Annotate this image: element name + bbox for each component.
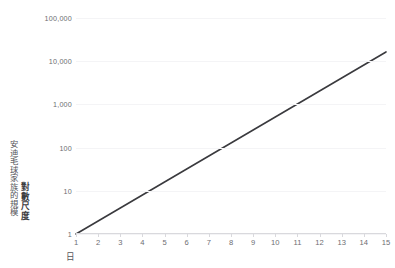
x-axis-tick-mark: [142, 234, 143, 237]
x-axis-tick-mark: [364, 234, 365, 237]
x-axis-tick-label: 2: [96, 238, 100, 247]
plot-area: [76, 18, 386, 234]
log-scale-growth-chart: 1101001,00010,000100,000 123456789101112…: [0, 0, 395, 268]
x-axis-tick-mark: [342, 234, 343, 237]
gridline: [76, 148, 386, 149]
y-axis-title-main: 安迪毛球家族的規模: [8, 140, 17, 217]
x-axis-tick-label: 11: [293, 238, 301, 247]
clipped-title-strip: [118, 0, 318, 5]
x-axis-tick-mark: [187, 234, 188, 237]
x-axis-title: 日: [66, 250, 76, 262]
y-axis-tick-label: 100,000: [45, 14, 72, 23]
x-axis-tick-mark: [165, 234, 166, 237]
x-axis-tick-label: 6: [185, 238, 189, 247]
y-axis-title: 安迪毛球家族的規模 對數尺度: [8, 140, 44, 248]
series-line-svg: [76, 18, 386, 234]
x-axis-tick-label: 9: [251, 238, 255, 247]
y-axis-tick-label: 10,000: [49, 57, 72, 66]
x-axis-tick-label: 1: [74, 238, 78, 247]
x-axis-tick-label: 10: [271, 238, 279, 247]
x-axis-tick-mark: [120, 234, 121, 237]
y-axis-tick-label: 1: [68, 230, 72, 239]
y-axis-tick-label: 10: [64, 186, 72, 195]
x-axis-tick-mark: [253, 234, 254, 237]
x-axis-tick-mark: [297, 234, 298, 237]
x-axis-tick-labels: 123456789101112131415: [76, 238, 386, 250]
x-axis-tick-mark: [275, 234, 276, 237]
y-axis-tick-labels: 1101001,00010,000100,000: [40, 18, 72, 234]
gridline: [76, 18, 386, 19]
gridline: [76, 104, 386, 105]
x-axis-tick-label: 3: [118, 238, 122, 247]
x-axis-tick-label: 13: [337, 238, 345, 247]
x-axis-tick-label: 4: [140, 238, 144, 247]
series-line-path: [76, 52, 386, 234]
x-axis-tick-mark: [76, 234, 77, 237]
x-axis-tick-label: 7: [207, 238, 211, 247]
y-axis-tick-label: 100: [59, 143, 72, 152]
gridline: [76, 191, 386, 192]
x-axis-tick-mark: [320, 234, 321, 237]
x-axis-tick-mark: [386, 234, 387, 237]
gridline: [76, 61, 386, 62]
x-axis-tick-mark: [98, 234, 99, 237]
y-axis-title-emphasis: 對數尺度: [19, 182, 28, 220]
y-axis-tick-label: 1,000: [53, 100, 72, 109]
x-axis-tick-mark: [209, 234, 210, 237]
x-axis-tick-label: 14: [360, 238, 368, 247]
x-axis-tick-label: 8: [229, 238, 233, 247]
x-axis-tick-label: 5: [162, 238, 166, 247]
x-axis-tick-label: 15: [382, 238, 390, 247]
x-axis-tick-label: 12: [315, 238, 323, 247]
x-axis-tick-mark: [231, 234, 232, 237]
